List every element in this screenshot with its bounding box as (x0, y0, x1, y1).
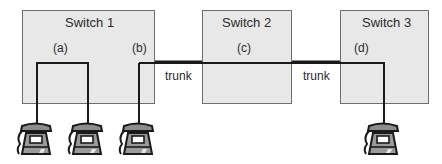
telephone-icon (66, 122, 106, 158)
telephone-icon (15, 122, 55, 158)
port-b-label: (b) (132, 41, 147, 55)
switch-2-label: Switch 2 (222, 15, 271, 30)
switch-3-label: Switch 3 (362, 15, 411, 30)
telephone-icon (117, 122, 157, 158)
trunk-label-1: trunk (165, 69, 192, 83)
port-a-label: (a) (53, 41, 68, 55)
telephone-icon (362, 122, 402, 158)
port-d-label: (d) (354, 41, 369, 55)
port-c-label: (c) (237, 41, 251, 55)
trunk-label-2: trunk (303, 69, 330, 83)
switch-1-label: Switch 1 (65, 15, 114, 30)
